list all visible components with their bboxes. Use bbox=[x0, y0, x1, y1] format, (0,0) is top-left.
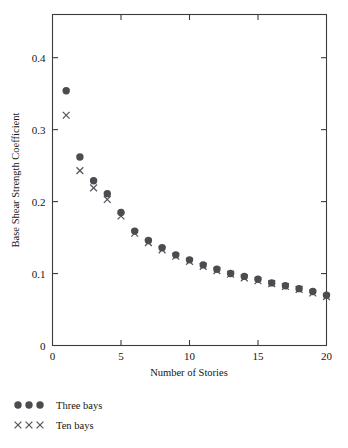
y-tick-label: 0 bbox=[40, 340, 46, 352]
legend-label-ten-bays: Ten bays bbox=[56, 420, 93, 431]
data-point-three-bays bbox=[186, 256, 193, 263]
data-point-three-bays bbox=[282, 282, 289, 289]
data-point-three-bays bbox=[200, 261, 207, 268]
x-tick-label: 10 bbox=[184, 350, 196, 362]
chart-legend bbox=[14, 401, 43, 428]
legend-marker-circle bbox=[36, 401, 43, 408]
legend-marker-cross bbox=[37, 422, 44, 429]
data-point-three-bays bbox=[90, 177, 97, 184]
x-axis-title: Number of Stories bbox=[150, 367, 228, 378]
data-point-three-bays bbox=[158, 244, 165, 251]
data-point-three-bays bbox=[268, 279, 275, 286]
chart-figure: 05101520 00.10.20.30.4 Number of Stories… bbox=[0, 0, 348, 448]
data-points-layer bbox=[62, 87, 330, 300]
x-tick-label: 20 bbox=[321, 350, 333, 362]
legend-marker-cross bbox=[26, 422, 33, 429]
data-point-ten-bays bbox=[90, 185, 97, 192]
y-tick-label: 0.4 bbox=[32, 52, 46, 64]
x-tick-label: 0 bbox=[50, 350, 56, 362]
x-tick-label: 5 bbox=[118, 350, 124, 362]
y-axis-title: Base Shear Strength Coefficient bbox=[10, 113, 21, 248]
y-axis-tick-labels: 00.10.20.30.4 bbox=[32, 52, 46, 352]
data-point-three-bays bbox=[62, 87, 69, 94]
legend-marker-circle bbox=[14, 401, 21, 408]
data-point-three-bays bbox=[254, 276, 261, 283]
y-tick-label: 0.2 bbox=[32, 196, 46, 208]
data-point-three-bays bbox=[104, 190, 111, 197]
legend-label-three-bays: Three bays bbox=[56, 400, 102, 411]
data-point-three-bays bbox=[213, 266, 220, 273]
data-point-ten-bays bbox=[63, 112, 70, 119]
base-shear-scatter-chart: 05101520 00.10.20.30.4 Number of Stories… bbox=[0, 0, 348, 448]
y-tick-label: 0.1 bbox=[32, 268, 46, 280]
y-tick-label: 0.3 bbox=[32, 124, 46, 136]
legend-marker-circle bbox=[25, 401, 32, 408]
data-point-three-bays bbox=[131, 227, 138, 234]
data-point-three-bays bbox=[117, 209, 124, 216]
x-tick-label: 15 bbox=[253, 350, 265, 362]
data-point-three-bays bbox=[241, 273, 248, 280]
data-point-ten-bays bbox=[77, 167, 84, 174]
x-axis-tick-labels: 05101520 bbox=[50, 350, 333, 362]
legend-marker-cross bbox=[15, 422, 22, 429]
data-point-three-bays bbox=[172, 251, 179, 258]
data-point-three-bays bbox=[295, 285, 302, 292]
data-point-three-bays bbox=[309, 288, 316, 295]
data-point-three-bays bbox=[227, 270, 234, 277]
data-point-three-bays bbox=[145, 237, 152, 244]
data-point-three-bays bbox=[76, 153, 83, 160]
data-point-three-bays bbox=[323, 291, 330, 298]
